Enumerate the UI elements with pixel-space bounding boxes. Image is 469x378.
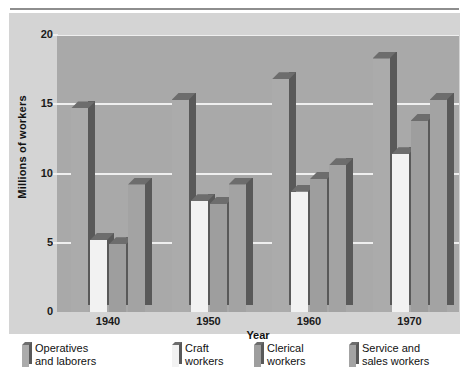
bar-front-face [128,185,145,312]
bar-front-face [71,108,88,312]
y-tick-label: 0 [13,306,53,317]
legend-swatch-icon [349,345,356,367]
bar-front-face [392,154,409,312]
bar-front-face [191,201,208,312]
bar-side-face [145,178,152,305]
legend-item-1: Craft workers [172,342,224,368]
legend-item-0: Operatives and laborers [22,342,96,368]
bar-1950-series-1 [191,201,208,312]
legend-label: Service and sales workers [362,342,429,368]
bar-front-face [272,79,289,312]
bar-1940-series-3 [128,185,145,312]
bar-front-face [310,179,327,312]
bar-1950-series-2 [210,204,227,312]
bar-1940-series-0 [71,108,88,312]
header-divider [10,8,459,10]
plot-area [57,35,459,312]
x-tick-label-1940: 1940 [96,315,120,327]
y-tick-label: 10 [13,168,53,179]
y-tick-label: 20 [13,29,53,40]
x-tick-label-1970: 1970 [397,315,421,327]
legend-swatch-icon [22,345,29,367]
x-tick-label-1950: 1950 [196,315,220,327]
legend-swatch-side [356,342,359,364]
bar-side-face [346,158,353,305]
legend-swatch-icon [254,345,261,367]
legend-label: Clerical workers [267,342,306,368]
bar-1940-series-1 [90,240,107,312]
bar-front-face [373,59,390,312]
bar-1950-series-0 [172,100,189,312]
chart-legend: Operatives and laborersCraft workersCler… [9,342,460,376]
bar-1960-series-0 [272,79,289,312]
bar-front-face [109,244,126,312]
bar-front-face [329,165,346,312]
legend-swatch-front [254,345,261,367]
legend-swatch-front [349,345,356,367]
y-tick-label: 5 [13,237,53,248]
legend-swatch-side [261,342,264,364]
bar-1970-series-0 [373,59,390,312]
bar-front-face [229,185,246,312]
bar-front-face [90,240,107,312]
bar-1970-series-1 [392,154,409,312]
bar-side-face [246,178,253,305]
y-axis-tick-labels: 05101520 [9,35,53,312]
legend-swatch-front [22,345,29,367]
legend-swatch-side [29,342,32,364]
bar-front-face [411,121,428,312]
x-axis-title: Year [57,329,459,341]
bar-1960-series-3 [329,165,346,312]
legend-swatch-front [172,345,179,367]
legend-swatch-side [179,342,182,364]
bar-1960-series-2 [310,179,327,312]
cropped-title-remnant [100,0,380,6]
legend-label: Craft workers [185,342,224,368]
bar-front-face [210,204,227,312]
legend-swatch-icon [172,345,179,367]
bar-1940-series-2 [109,244,126,312]
bar-front-face [291,192,308,312]
y-tick-label: 15 [13,98,53,109]
bar-front-face [430,100,447,312]
gridline [57,103,459,105]
chart-figure: Millions of workers 05101520 19401950196… [9,13,460,334]
legend-label: Operatives and laborers [35,342,96,368]
bar-1970-series-2 [411,121,428,312]
legend-item-3: Service and sales workers [349,342,429,368]
gridline [57,35,459,36]
bar-1950-series-3 [229,185,246,312]
bar-front-face [172,100,189,312]
bar-1960-series-1 [291,192,308,312]
bar-1970-series-3 [430,100,447,312]
legend-item-2: Clerical workers [254,342,306,368]
x-tick-label-1960: 1960 [297,315,321,327]
bar-side-face [447,93,454,305]
